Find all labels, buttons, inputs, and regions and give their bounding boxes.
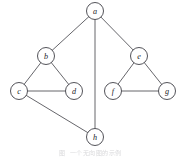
edge-e-f (118, 63, 134, 84)
edge-b-c (24, 63, 41, 85)
figure-caption: 图 ﻿ 一个无向图的示例 (0, 148, 181, 159)
nodes-group: abecdfgh (11, 3, 176, 146)
edges-group (24, 17, 162, 133)
edge-b-d (51, 63, 68, 85)
node-h[interactable]: h (87, 129, 104, 146)
edge-e-g (144, 63, 161, 85)
node-b[interactable]: b (38, 48, 55, 65)
edge-a-e (101, 17, 133, 50)
node-label-c: c (17, 87, 21, 96)
graph-canvas: abecdfgh (0, 0, 181, 159)
node-d[interactable]: d (66, 83, 83, 100)
edge-a-b (52, 17, 88, 51)
node-a[interactable]: a (87, 3, 104, 20)
node-label-a: a (93, 7, 97, 16)
edge-c-h (26, 95, 87, 132)
node-e[interactable]: e (131, 48, 148, 65)
node-c[interactable]: c (11, 83, 28, 100)
node-label-b: b (44, 52, 48, 61)
node-label-h: h (93, 133, 97, 142)
graph-figure: abecdfgh 图 ﻿ 一个无向图的示例 (0, 0, 181, 159)
node-f[interactable]: f (105, 83, 122, 100)
node-g[interactable]: g (159, 83, 176, 100)
node-label-e: e (137, 52, 141, 61)
node-label-g: g (165, 87, 169, 96)
